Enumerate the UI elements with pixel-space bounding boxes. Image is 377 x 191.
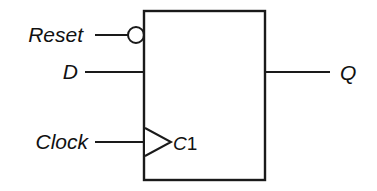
clock-input-label: Clock xyxy=(35,130,89,153)
clock-pin-label: C1 xyxy=(173,133,197,154)
flip-flop-body xyxy=(144,11,265,180)
clock-pin-letter: C xyxy=(173,133,187,154)
q-output-label: Q xyxy=(340,61,356,84)
logic-diagram-canvas: Reset 1R D 1D Clock C1 Q xyxy=(0,0,377,191)
clock-pin-number: 1 xyxy=(187,133,198,154)
flip-flop-symbol: Reset 1R D 1D Clock C1 Q xyxy=(0,0,377,191)
reset-input-label: Reset xyxy=(28,23,84,46)
inversion-bubble-icon xyxy=(128,27,144,43)
data-input-label: D xyxy=(63,60,78,83)
